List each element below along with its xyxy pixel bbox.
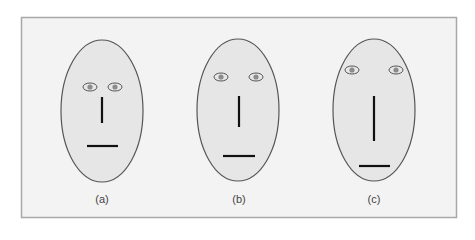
eye-iris (112, 84, 117, 89)
eye-iris (393, 67, 398, 72)
caption-b: (b) (232, 193, 245, 205)
face-b (197, 39, 279, 181)
left-eye-icon (214, 73, 228, 81)
caption-c: (c) (368, 193, 381, 205)
eye-iris (87, 84, 92, 89)
eye-iris (253, 74, 258, 79)
eye-iris (218, 74, 223, 79)
right-eye-icon (249, 73, 263, 81)
eye-iris (349, 67, 354, 72)
face-a (61, 40, 143, 182)
faces-group (61, 39, 415, 182)
left-eye-icon (83, 83, 97, 91)
left-eye-icon (345, 66, 359, 74)
caption-a: (a) (95, 193, 108, 205)
right-eye-icon (108, 83, 122, 91)
face-c (333, 39, 415, 181)
right-eye-icon (389, 66, 403, 74)
